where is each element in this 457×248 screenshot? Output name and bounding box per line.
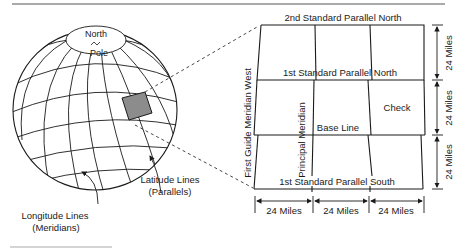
label-check: Check: [384, 102, 411, 113]
longitude-label-line2: (Meridians): [32, 222, 80, 233]
label-principal-meridian: Principal Meridian: [296, 102, 307, 178]
projection-line-top: [145, 27, 257, 92]
right-dimensions: [432, 25, 443, 189]
north-label: North: [85, 29, 107, 39]
right-dimension-2: 24 Miles: [443, 90, 454, 126]
label-1st-standard-parallel-north: 1st Standard Parallel North: [283, 67, 397, 78]
bottom-dimension-2: 24 Miles: [323, 205, 359, 216]
pole-label: Pole: [90, 48, 108, 58]
township-survey-diagram: North Pole Longitude Lines (Meridians) L…: [0, 0, 457, 248]
label-base-line: Base Line: [317, 122, 359, 133]
highlighted-township: [122, 92, 152, 120]
longitude-arrow: [82, 172, 98, 204]
bottom-dimension-1: 24 Miles: [266, 205, 302, 216]
right-dimension-1: 24 Miles: [443, 35, 454, 71]
bottom-dimension-3: 24 Miles: [378, 205, 414, 216]
longitude-label-line1: Longitude Lines: [21, 210, 88, 221]
right-dimension-3: 24 Miles: [443, 144, 454, 180]
label-first-guide-meridian-west: First Guide Meridian West: [242, 68, 253, 178]
label-2nd-standard-parallel-north: 2nd Standard Parallel North: [284, 12, 401, 23]
latitude-label-line2: (Parallels): [149, 186, 192, 197]
latitude-label-line1: Latitude Lines: [140, 174, 199, 185]
